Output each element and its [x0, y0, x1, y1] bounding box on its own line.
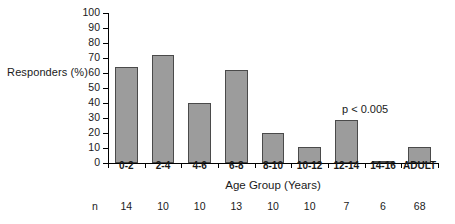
x-category-label: 0-2 — [108, 160, 145, 171]
y-tick-label: 0 — [94, 156, 100, 168]
y-tick-mark — [103, 103, 108, 104]
y-axis-line — [108, 13, 109, 164]
y-axis-label: Responders (%) — [6, 66, 88, 78]
bar — [335, 120, 358, 164]
bar — [225, 70, 248, 163]
sample-size-value: 68 — [401, 200, 438, 212]
sample-size-value: 14 — [108, 200, 145, 212]
y-tick-mark — [103, 13, 108, 14]
p-value-annotation: p < 0.005 — [342, 103, 388, 115]
y-tick-label: 40 — [88, 96, 100, 108]
y-tick-mark — [103, 73, 108, 74]
y-tick-mark — [103, 58, 108, 59]
y-tick-label: 70 — [88, 51, 100, 63]
x-category-label: 12-14 — [328, 160, 365, 171]
y-tick-label: 60 — [88, 66, 100, 78]
sample-size-value: 10 — [291, 200, 328, 212]
y-tick-mark — [103, 148, 108, 149]
x-category-label: 2-4 — [145, 160, 182, 171]
y-tick-mark — [103, 88, 108, 89]
sample-size-value: 7 — [328, 200, 365, 212]
y-tick-label: 100 — [82, 6, 100, 18]
sample-size-value: 10 — [145, 200, 182, 212]
y-tick-label: 90 — [88, 21, 100, 33]
sample-size-value: 10 — [255, 200, 292, 212]
y-tick-label: 20 — [88, 126, 100, 138]
y-tick-mark — [103, 28, 108, 29]
bar — [115, 67, 138, 163]
plot-area: 1009080706050403020100 — [108, 13, 438, 163]
x-category-label: 4-6 — [181, 160, 218, 171]
bar-chart-figure: Responders (%) 1009080706050403020100 0-… — [0, 0, 455, 224]
sample-size-row-label: n — [92, 200, 98, 212]
x-category-label: 8-10 — [255, 160, 292, 171]
y-tick-label: 80 — [88, 36, 100, 48]
bar — [152, 55, 175, 163]
y-tick-label: 30 — [88, 111, 100, 123]
x-category-label: 6-8 — [218, 160, 255, 171]
x-axis-title: Age Group (Years) — [108, 179, 438, 191]
sample-size-value: 10 — [181, 200, 218, 212]
y-tick-mark — [103, 43, 108, 44]
y-tick-label: 50 — [88, 81, 100, 93]
x-category-label: 10-12 — [291, 160, 328, 171]
sample-size-value: 13 — [218, 200, 255, 212]
y-tick-mark — [103, 133, 108, 134]
y-tick-label: 10 — [88, 141, 100, 153]
x-category-label: ADULT — [401, 160, 438, 171]
bar — [262, 133, 285, 163]
x-tick-mark — [438, 163, 439, 168]
x-category-label: 14-16 — [365, 160, 402, 171]
bar — [188, 103, 211, 163]
y-tick-mark — [103, 118, 108, 119]
sample-size-value: 6 — [365, 200, 402, 212]
